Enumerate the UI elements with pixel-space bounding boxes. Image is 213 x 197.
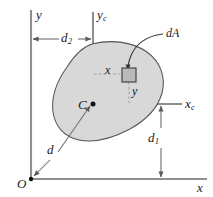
y-coordinate-label: y	[132, 85, 137, 97]
x-coordinate-label: x	[105, 64, 110, 76]
y-axis-label: y	[36, 8, 42, 21]
x-axis-label: x	[197, 181, 203, 194]
dimension-d2-label: d2	[61, 31, 72, 46]
xc-axis-label: xc	[185, 97, 195, 112]
differential-element-dA	[122, 68, 136, 82]
origin-label: O	[17, 177, 26, 190]
figure-canvas	[0, 0, 213, 197]
figure-parallel-axis-theorem: y yc xc x O C d2 d1 d dA x y	[0, 0, 213, 197]
centroid-label: C	[78, 98, 87, 111]
area-region	[53, 42, 164, 141]
dimension-d1-label: d1	[148, 131, 159, 146]
origin-point-marker	[29, 177, 33, 181]
dA-element-label: dA	[166, 27, 179, 39]
d-line-lower	[34, 160, 50, 176]
centroid-point-marker	[91, 102, 96, 107]
dimension-d-label: d	[47, 143, 54, 156]
yc-axis-label: yc	[97, 8, 107, 23]
